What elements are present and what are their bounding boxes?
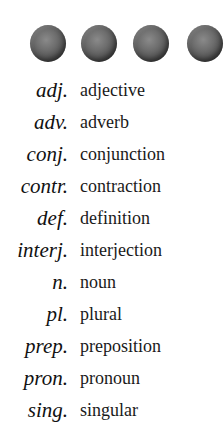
abbreviation: conj.: [27, 138, 68, 170]
definition-term: definition: [80, 202, 150, 234]
definition-term: contraction: [80, 170, 161, 202]
abbreviation: contr.: [21, 170, 68, 202]
decorative-dot-row: [0, 25, 214, 63]
legend-row-adv: adv. adverb: [0, 106, 214, 138]
legend-row-conj: conj. conjunction: [0, 138, 214, 170]
abbreviation: def.: [37, 202, 68, 234]
gray-dot-icon: [81, 25, 117, 62]
definition-term: conjunction: [80, 138, 165, 170]
legend-row-sing: sing. singular: [0, 394, 214, 426]
gray-dot-icon: [187, 25, 223, 62]
legend-row-prep: prep. preposition: [0, 330, 214, 362]
abbreviation: pl.: [46, 298, 68, 330]
definition-term: adjective: [80, 74, 145, 106]
legend-row-contr: contr. contraction: [0, 170, 214, 202]
definition-term: interjection: [80, 234, 162, 266]
definition-term: singular: [80, 394, 138, 426]
abbreviation: interj.: [17, 234, 68, 266]
abbreviation-legend: adj. adjective adv. adverb conj. conjunc…: [0, 74, 214, 426]
abbreviation: adj.: [36, 74, 68, 106]
legend-row-adj: adj. adjective: [0, 74, 214, 106]
abbreviation: n.: [52, 266, 68, 298]
legend-row-interj: interj. interjection: [0, 234, 214, 266]
definition-term: noun: [80, 266, 116, 298]
abbreviation: pron.: [24, 362, 68, 394]
legend-row-n: n. noun: [0, 266, 214, 298]
definition-term: pronoun: [80, 362, 140, 394]
definition-term: preposition: [80, 330, 161, 362]
abbreviation: adv.: [34, 106, 68, 138]
legend-row-pl: pl. plural: [0, 298, 214, 330]
definition-term: adverb: [80, 106, 129, 138]
gray-dot-icon: [133, 25, 169, 62]
definition-term: plural: [80, 298, 122, 330]
abbreviation: prep.: [25, 330, 68, 362]
legend-row-def: def. definition: [0, 202, 214, 234]
abbreviation: sing.: [28, 394, 68, 426]
legend-row-pron: pron. pronoun: [0, 362, 214, 394]
gray-dot-icon: [30, 25, 66, 62]
